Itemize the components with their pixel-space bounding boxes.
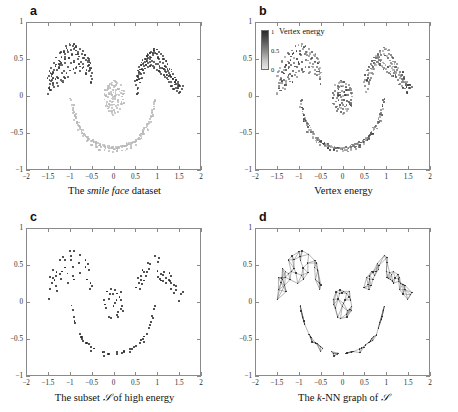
- data-point: [56, 290, 58, 292]
- data-point: [288, 259, 289, 260]
- data-point: [383, 67, 385, 69]
- x-tick: [343, 22, 344, 26]
- data-point: [82, 50, 84, 52]
- data-point: [67, 51, 69, 53]
- data-point: [359, 146, 361, 148]
- data-point: [296, 58, 298, 60]
- y-tick: [426, 59, 430, 60]
- data-point: [179, 91, 181, 93]
- colorbar-title: Vertex energy: [279, 27, 325, 36]
- data-point: [64, 62, 66, 64]
- y-tick-label: 0.5: [2, 55, 23, 63]
- y-tick-label: 1: [2, 18, 23, 26]
- data-point: [341, 90, 343, 92]
- y-tick: [255, 59, 259, 60]
- data-point: [332, 92, 334, 94]
- x-tick: [277, 22, 278, 26]
- data-point: [135, 140, 137, 142]
- data-point: [339, 81, 341, 83]
- data-point: [91, 72, 93, 74]
- x-tick: [70, 22, 71, 26]
- data-point: [69, 250, 71, 252]
- panel-caption-c: The subset 𝒮 of high energy: [0, 391, 229, 404]
- data-point: [147, 66, 149, 68]
- y-tick: [197, 228, 201, 229]
- data-point: [300, 310, 301, 311]
- y-tick: [197, 265, 201, 266]
- y-tick-label: −0.5: [2, 335, 23, 343]
- data-point: [108, 103, 110, 105]
- data-point: [278, 82, 280, 84]
- data-point: [300, 305, 301, 306]
- data-point: [308, 48, 310, 50]
- x-tick: [70, 166, 71, 170]
- x-tick: [157, 166, 158, 170]
- data-point: [105, 105, 107, 107]
- data-point: [160, 53, 162, 55]
- data-point: [60, 278, 62, 280]
- data-point: [396, 69, 398, 71]
- x-tick-label: −0.5: [83, 173, 101, 181]
- x-tick: [48, 166, 49, 170]
- x-tick-label: −1.5: [268, 173, 286, 181]
- data-point: [372, 271, 373, 272]
- data-point: [383, 309, 384, 310]
- data-point: [60, 51, 62, 53]
- data-point: [342, 306, 343, 307]
- data-point: [349, 87, 351, 89]
- y-tick: [26, 265, 30, 266]
- data-point: [395, 76, 397, 78]
- data-point: [72, 275, 74, 277]
- data-point: [333, 355, 334, 356]
- x-tick: [135, 228, 136, 232]
- data-point: [103, 299, 105, 301]
- data-point: [52, 269, 54, 271]
- data-point: [142, 338, 144, 340]
- y-tick: [26, 339, 30, 340]
- data-point: [150, 121, 152, 123]
- x-tick-label: −1: [61, 379, 79, 387]
- panel-a: −2−1.5−1−0.500.511.52−1−0.500.51aThe smi…: [0, 0, 229, 206]
- data-point: [295, 272, 296, 273]
- data-point: [306, 131, 308, 133]
- data-point: [149, 65, 151, 67]
- data-point: [104, 94, 106, 96]
- data-point: [50, 67, 52, 69]
- data-point: [309, 62, 311, 64]
- x-tick-label: −1: [290, 173, 308, 181]
- data-point: [74, 72, 76, 74]
- data-point: [182, 85, 184, 87]
- data-point: [292, 70, 294, 72]
- x-tick-label: 0: [105, 173, 123, 181]
- data-point: [372, 279, 373, 280]
- data-point: [342, 108, 344, 110]
- x-tick-label: 1.5: [170, 379, 188, 387]
- x-tick: [386, 166, 387, 170]
- data-point: [90, 346, 92, 348]
- data-point: [106, 89, 108, 91]
- data-point: [107, 85, 109, 87]
- x-tick: [179, 22, 180, 26]
- data-point: [293, 62, 295, 64]
- data-point: [119, 108, 121, 110]
- data-point: [108, 298, 110, 300]
- data-point: [394, 277, 395, 278]
- data-point: [58, 67, 60, 69]
- data-point: [89, 67, 91, 69]
- data-point: [76, 66, 78, 68]
- data-point: [83, 57, 85, 59]
- data-point: [110, 83, 112, 85]
- data-point: [284, 88, 286, 90]
- data-point: [311, 57, 313, 59]
- data-point: [339, 106, 341, 108]
- panel-letter-b: b: [259, 4, 267, 18]
- y-tick: [26, 133, 30, 134]
- x-tick-label: 1: [377, 173, 395, 181]
- data-point: [52, 277, 54, 279]
- data-point: [335, 307, 336, 308]
- data-point: [181, 88, 183, 90]
- data-point: [367, 88, 369, 90]
- data-point: [346, 314, 347, 315]
- data-point: [402, 293, 403, 294]
- data-point: [130, 147, 132, 149]
